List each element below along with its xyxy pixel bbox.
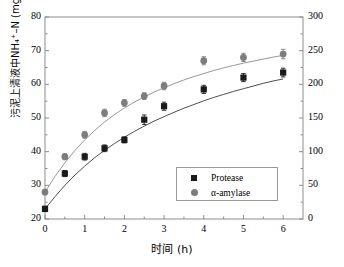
y-right-tick-label-6: 300 <box>308 10 338 21</box>
legend-item-amylase: α-amylase <box>177 185 279 200</box>
x-tick-label-1: 1 <box>71 223 99 234</box>
y-right-tick-label-4: 200 <box>308 77 338 88</box>
circle-marker-icon <box>183 189 205 196</box>
y-right-tick-label-5: 250 <box>308 44 338 55</box>
x-tick-label-4: 4 <box>190 223 218 234</box>
y-right-tick-label-1: 50 <box>308 178 338 189</box>
legend-label-protease: Protease <box>211 173 243 183</box>
x-tick-label-6: 6 <box>269 223 297 234</box>
x-tick-label-0: 0 <box>31 223 59 234</box>
y-right-tick-label-0: 0 <box>308 212 338 223</box>
y-right-tick-label-2: 100 <box>308 145 338 156</box>
legend-item-protease: Protease <box>177 170 279 185</box>
y-right-tick-label-3: 150 <box>308 111 338 122</box>
x-axis-label: 时间 (h) <box>0 240 344 256</box>
x-tick-label-3: 3 <box>150 223 178 234</box>
x-tick-label-5: 5 <box>229 223 257 234</box>
square-marker-icon <box>183 175 205 181</box>
y-tick-label-0: 20 <box>13 212 41 223</box>
chart-legend: Protease α-amylase <box>176 167 278 201</box>
chart-figure: 012345620304050607080050100150200250300 … <box>0 0 344 267</box>
y-tick-label-1: 30 <box>13 178 41 189</box>
x-tick-label-2: 2 <box>110 223 138 234</box>
y-axis-label: 污泥上清液中NH₄⁺–N (mg/L) <box>7 0 22 152</box>
legend-label-amylase: α-amylase <box>211 188 250 198</box>
